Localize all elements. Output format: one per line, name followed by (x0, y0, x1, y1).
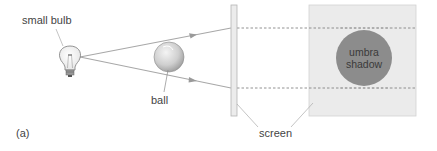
ball-leader (164, 70, 168, 92)
bulb-label: small bulb (22, 15, 72, 26)
bulb-icon (59, 46, 80, 77)
ball-label: ball (151, 95, 168, 106)
umbra-label: umbra shadow (334, 46, 394, 70)
screen-leader-left (237, 104, 258, 127)
lower-arrow-icon (189, 77, 197, 83)
upper-arrow-icon (189, 33, 197, 38)
panel-label: (a) (16, 128, 29, 139)
umbra-label-line2: shadow (334, 58, 394, 70)
umbra-label-line1: umbra (334, 46, 394, 58)
bulb-leader (56, 29, 63, 46)
screen-bar (231, 5, 237, 116)
screen-label: screen (259, 128, 292, 139)
